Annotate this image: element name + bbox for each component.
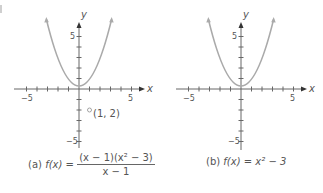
caption-prefix: (a) [28, 159, 42, 170]
y-tick-label-5: 5 [70, 32, 75, 41]
y-tick-label-neg5: −5 [66, 137, 78, 146]
curve-right-arrow-icon [109, 17, 114, 23]
graph-b: y x −5 5 5 −5 [162, 0, 323, 150]
caption-prefix: (b) [206, 156, 220, 167]
y-tick-label-neg5: −5 [228, 137, 240, 146]
x-axis-arrow-icon [301, 87, 307, 92]
caption-function: f(x) = [45, 159, 74, 170]
caption-expression: x² − 3 [255, 156, 286, 167]
graph-b-caption: (b) f(x) = x² − 3 [206, 156, 286, 167]
fraction-numerator: (x − 1)(x² − 3) [77, 152, 155, 165]
y-axis-arrow-icon [239, 22, 244, 28]
y-axis-label: y [80, 9, 88, 20]
curve-left-arrow-icon [44, 17, 49, 23]
graph-a-plot: y x −5 5 5 −5 (1, 2) [0, 0, 160, 150]
point-annotation: (1, 2) [93, 108, 120, 119]
x-axis-label: x [308, 83, 315, 94]
curve-right-arrow-icon [271, 17, 276, 23]
y-tick-label-5: 5 [232, 32, 237, 41]
x-axis-label: x [146, 83, 153, 94]
hole-point-icon [88, 108, 92, 112]
graph-a: y x −5 5 5 −5 (1, 2) [0, 0, 160, 150]
x-tick-label-5: 5 [128, 94, 133, 103]
y-axis-arrow-icon [77, 22, 82, 28]
fraction-denominator: x − 1 [102, 165, 129, 177]
caption-function: f(x) = [223, 156, 252, 167]
x-axis-arrow-icon [139, 87, 145, 92]
caption-fraction: (x − 1)(x² − 3) x − 1 [77, 152, 155, 177]
curve-left-arrow-icon [206, 17, 211, 23]
graph-a-caption: (a) f(x) = (x − 1)(x² − 3) x − 1 [28, 152, 155, 177]
y-axis-label: y [242, 9, 250, 20]
graph-a-axes [14, 28, 141, 148]
graph-b-plot: y x −5 5 5 −5 [162, 0, 323, 150]
x-tick-label-neg5: −5 [21, 94, 33, 103]
graph-b-axes [176, 28, 303, 150]
x-tick-label-neg5: −5 [183, 94, 195, 103]
x-tick-label-5: 5 [290, 94, 295, 103]
